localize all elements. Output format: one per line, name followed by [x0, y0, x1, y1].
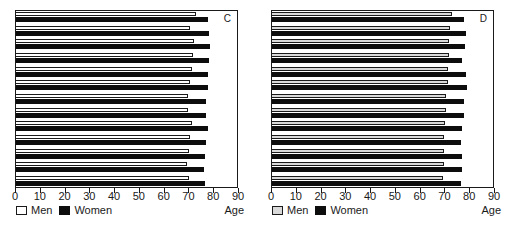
- legend-item-women-d: Women: [315, 205, 368, 216]
- x-tick-label: 40: [108, 190, 120, 203]
- bar-men: [16, 26, 190, 30]
- bar-men: [16, 176, 189, 180]
- bar-men: [272, 80, 448, 84]
- bar-group: [16, 94, 237, 104]
- bar-men: [16, 53, 193, 57]
- x-tick-labels-c: 0102030405060708090: [0, 190, 256, 204]
- bar-women: [272, 58, 462, 63]
- x-tick-label: 0: [12, 190, 18, 203]
- bar-group: [272, 149, 493, 159]
- bar-groups-c: [16, 11, 237, 187]
- x-tick-label: 30: [83, 190, 95, 203]
- bar-women: [272, 167, 462, 172]
- bar-group: [272, 39, 493, 49]
- legend-label-men: Men: [31, 205, 52, 216]
- x-tick-label: 80: [463, 190, 475, 203]
- x-tick-label: 20: [58, 190, 70, 203]
- bar-women: [272, 72, 466, 77]
- bar-men: [16, 80, 190, 84]
- bar-women: [16, 140, 206, 145]
- bar-group: [272, 12, 493, 22]
- bar-men: [272, 39, 449, 43]
- legend-swatch-women-icon: [315, 206, 326, 215]
- bar-group: [16, 176, 237, 186]
- bar-women: [16, 99, 206, 104]
- legend-label-women: Women: [330, 205, 368, 216]
- x-tick-label: 50: [389, 190, 401, 203]
- x-tick-label: 90: [488, 190, 500, 203]
- axis-title-c: Age: [224, 205, 244, 216]
- legend-item-men-c: Men: [16, 205, 52, 216]
- bar-women: [16, 17, 208, 22]
- x-tick-labels-d: 0102030405060708090: [256, 190, 512, 204]
- bar-men: [272, 12, 452, 16]
- bar-women: [272, 17, 464, 22]
- bar-men: [272, 108, 446, 112]
- bar-group: [16, 80, 237, 90]
- legend-swatch-women-icon: [59, 206, 70, 215]
- bar-group: [16, 108, 237, 118]
- x-tick-label: 10: [34, 190, 46, 203]
- bar-women: [16, 113, 206, 118]
- bar-group: [272, 26, 493, 36]
- bar-women: [272, 140, 461, 145]
- bar-women: [16, 154, 205, 159]
- x-tick-label: 90: [232, 190, 244, 203]
- bar-men: [272, 162, 444, 166]
- bar-men: [16, 94, 188, 98]
- legend-item-women-c: Women: [59, 205, 112, 216]
- bar-men: [16, 67, 192, 71]
- x-tick-label: 20: [314, 190, 326, 203]
- bar-women: [16, 31, 209, 36]
- x-tick-label: 80: [207, 190, 219, 203]
- bar-women: [16, 44, 210, 49]
- bar-group: [16, 135, 237, 145]
- bar-group: [16, 12, 237, 22]
- bar-group: [272, 67, 493, 77]
- bar-women: [272, 31, 466, 36]
- bar-group: [272, 162, 493, 172]
- bar-group: [16, 121, 237, 131]
- bar-men: [272, 176, 443, 180]
- bar-women: [272, 126, 462, 131]
- bar-men: [272, 121, 445, 125]
- bar-men: [16, 162, 187, 166]
- bar-men: [16, 12, 196, 16]
- bar-groups-d: [272, 11, 493, 187]
- bar-women: [16, 85, 208, 90]
- x-tick-label: 10: [290, 190, 302, 203]
- legend-item-men-d: Men: [272, 205, 308, 216]
- legend-d: Men Women: [272, 205, 368, 216]
- plot-area-c: C: [15, 10, 238, 188]
- x-tick-label: 30: [339, 190, 351, 203]
- bar-women: [272, 99, 464, 104]
- figure-container: C 0102030405060708090 Men Women Age D 01…: [0, 0, 513, 225]
- bar-women: [16, 126, 208, 131]
- bar-men: [16, 135, 190, 139]
- bar-group: [272, 121, 493, 131]
- bar-men: [16, 108, 188, 112]
- bar-men: [16, 39, 194, 43]
- x-tick-label: 70: [182, 190, 194, 203]
- bar-women: [16, 58, 209, 63]
- bar-group: [16, 149, 237, 159]
- legend-swatch-men-icon: [16, 206, 27, 215]
- bar-women: [272, 154, 462, 159]
- x-tick-label: 60: [158, 190, 170, 203]
- bar-women: [16, 72, 208, 77]
- x-tick-label: 60: [414, 190, 426, 203]
- bar-men: [272, 94, 446, 98]
- bar-women: [272, 44, 465, 49]
- legend-c: Men Women: [16, 205, 112, 216]
- axis-title-d: Age: [481, 205, 501, 216]
- x-tick-label: 50: [133, 190, 145, 203]
- plot-area-d: D: [271, 10, 494, 188]
- bar-men: [272, 149, 444, 153]
- bar-women: [16, 167, 204, 172]
- bar-women: [272, 113, 464, 118]
- legend-label-women: Women: [74, 205, 112, 216]
- bar-men: [272, 26, 450, 30]
- x-tick-label: 70: [438, 190, 450, 203]
- bar-men: [272, 53, 449, 57]
- legend-label-men: Men: [287, 205, 308, 216]
